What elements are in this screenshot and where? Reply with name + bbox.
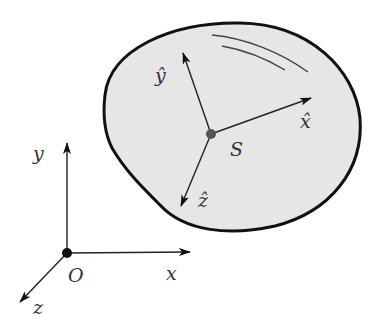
- label-x: x: [166, 262, 177, 284]
- label-z-hat: ẑ: [197, 189, 209, 211]
- world-origin-point: [62, 248, 72, 258]
- world-axis-x: [67, 252, 190, 253]
- label-x-hat: x̂: [300, 110, 311, 132]
- label-z: z: [32, 296, 44, 318]
- label-origin: O: [68, 264, 84, 286]
- world-axis-z: [20, 253, 67, 302]
- label-y: y: [32, 142, 44, 164]
- body-point-s: [206, 129, 216, 139]
- label-s: S: [230, 138, 243, 160]
- rigid-body-diagram: ŷ x̂ S ẑ y x O z: [0, 0, 373, 330]
- label-y-hat: ŷ: [154, 64, 166, 86]
